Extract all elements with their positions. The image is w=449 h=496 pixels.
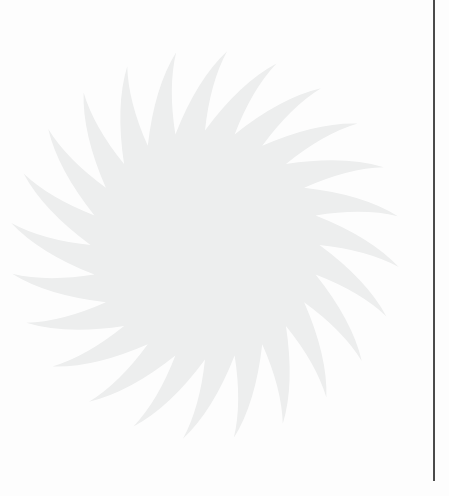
sunburst-path — [11, 51, 399, 439]
vertical-margin-rule — [433, 0, 435, 481]
page-canvas — [0, 0, 449, 496]
paper-grain-overlay — [0, 0, 449, 496]
sunburst-watermark — [0, 0, 449, 496]
sunburst-svg — [0, 0, 449, 496]
